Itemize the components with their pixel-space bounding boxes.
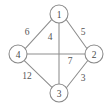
node-label-2: 2 [92,50,97,60]
node-label-1: 1 [57,10,62,20]
edges-group [24,20,87,88]
edge-weight-4-3: 12 [22,71,32,81]
graph-canvas: 1 2 3 4 6 5 4 7 12 3 [0,0,111,107]
edge-weight-4-2: 7 [68,56,73,66]
edge-weight-1-3: 4 [48,32,53,42]
edge-weight-1-2: 5 [81,27,86,37]
weighted-graph-figure: 1 2 3 4 6 5 4 7 12 3 [0,0,111,107]
node-label-3: 3 [57,89,62,99]
edge-weight-4-1: 6 [25,27,30,37]
node-label-4: 4 [16,50,21,60]
edge-weight-2-3: 3 [81,73,86,83]
